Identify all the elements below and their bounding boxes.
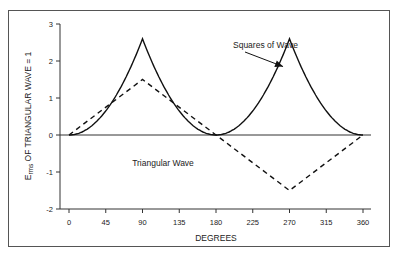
annotation-squares-of-wave: Squares of Wave (233, 40, 298, 50)
y-tick-label: 2 (49, 57, 53, 66)
x-tick-label: 270 (283, 218, 296, 227)
x-tick-label: 0 (67, 218, 71, 227)
x-axis-label: DEGREES (195, 233, 237, 243)
y-axis-label: Erms OF TRIANGULAR WAVE = 1 (23, 51, 34, 180)
x-tick-label: 90 (138, 218, 146, 227)
x-tick-label: 45 (102, 218, 110, 227)
y-tick-label: -2 (46, 205, 53, 214)
annotation-triangular-wave: Triangular Wave (132, 158, 194, 168)
x-tick-label: 315 (320, 218, 333, 227)
x-tick-label: 225 (246, 218, 259, 227)
chart: 3210-1-204590135180225270315360 DEGREES … (0, 0, 400, 257)
y-tick-label: 3 (49, 20, 53, 29)
series-squares-of-wave (69, 39, 363, 135)
y-tick-label: -1 (46, 168, 53, 177)
x-tick-label: 360 (357, 218, 370, 227)
x-tick-label: 180 (210, 218, 223, 227)
annotation-arrowhead (274, 60, 283, 67)
y-tick-label: 1 (49, 94, 53, 103)
x-tick-label: 135 (173, 218, 186, 227)
y-tick-label: 0 (49, 131, 53, 140)
